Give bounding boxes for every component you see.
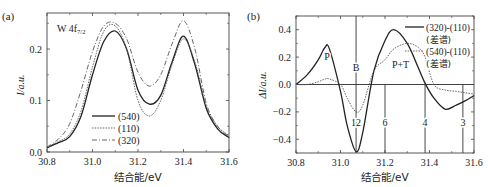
panel-a: (a) 30.831.031.231.431.60.00.10.2 W 4f7/… (2, 10, 238, 183)
legend-label: (540)-(110) (426, 47, 470, 58)
x-tick-label: 31.2 (129, 156, 147, 167)
x-tick-label: 31.6 (220, 156, 238, 167)
panel-a-label: (a) (2, 10, 15, 23)
legend-label: (110) (118, 123, 139, 135)
y-tick-label: 0.2 (30, 44, 43, 55)
legend-label: (320)-(110) (426, 23, 470, 34)
y-tick-label: 0.0 (279, 79, 292, 90)
x-tick-label: 31.2 (376, 157, 394, 168)
panel-b-legend: (320)-(110)(差谱)(540)-(110)(差谱) (405, 23, 470, 70)
y-tick-label: −0.4 (273, 134, 291, 145)
legend-sublabel: (差谱) (426, 58, 451, 69)
y-tick-label: −0.2 (273, 106, 291, 117)
x-tick-label: 31.6 (465, 157, 483, 168)
panel-a-xlabel: 结合能/eV (114, 171, 162, 183)
panel-a-annotation: W 4f7/2 (57, 23, 85, 35)
panel-b: (b) 30.831.031.231.431.60.40.20.0−0.2−0.… (247, 10, 483, 183)
panel-a-legend: (540)(110)(320) (92, 111, 140, 147)
panel-b-xlabel: 结合能/eV (361, 171, 409, 183)
y-tick-label: 0.0 (30, 147, 43, 158)
y-tick-label: 0.1 (30, 95, 43, 106)
x-tick-label: 31.0 (332, 157, 350, 168)
x-tick-label: 31.4 (421, 157, 439, 168)
marker-label: 3 (460, 117, 465, 128)
marker-label: 4 (423, 117, 428, 128)
chart-figure: (a) 30.831.031.231.431.60.00.10.2 W 4f7/… (0, 0, 488, 187)
legend-sublabel: (差谱) (426, 34, 451, 45)
marker-label: 12 (351, 117, 361, 128)
peak-annotation: P+T (392, 59, 409, 70)
panel-b-ylabel: ΔI/a.u. (257, 72, 268, 100)
x-tick-label: 30.8 (38, 156, 56, 167)
x-tick-label: 30.8 (287, 157, 305, 168)
panel-a-ylabel: I/a.u. (15, 74, 26, 96)
marker-label: 6 (383, 117, 388, 128)
panel-b-label: (b) (247, 10, 260, 23)
x-tick-label: 31.4 (175, 156, 193, 167)
peak-annotation: P (324, 51, 330, 62)
y-tick-label: 0.4 (279, 24, 292, 35)
legend-label: (540) (118, 111, 140, 123)
peak-annotation: B (353, 62, 360, 73)
y-tick-label: 0.2 (279, 52, 292, 63)
x-tick-label: 31.0 (84, 156, 102, 167)
legend-label: (320) (118, 135, 140, 147)
panel-b-ticks: 30.831.031.231.431.60.40.20.0−0.2−0.4 (273, 16, 483, 168)
